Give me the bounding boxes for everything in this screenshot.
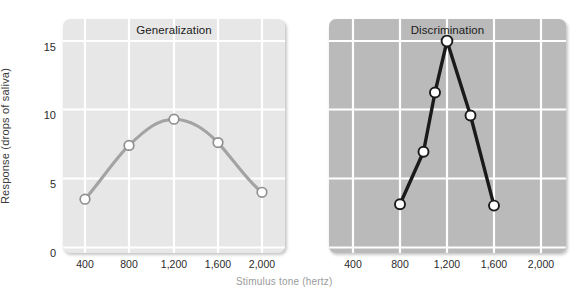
x-tick-right-800: 800 xyxy=(391,258,409,270)
x-tick-left-400: 400 xyxy=(76,258,94,270)
panel-title-generalization: Generalization xyxy=(63,24,285,36)
x-tick-right-1600: 1,600 xyxy=(481,258,507,270)
panel-title-discrimination: Discrimination xyxy=(329,24,566,36)
y-tick-5: 5 xyxy=(22,178,56,190)
x-tick-right-400: 400 xyxy=(344,258,362,270)
gridlines-vertical xyxy=(353,19,541,253)
panel-discrimination: Discrimination xyxy=(329,19,566,253)
x-tick-right-2000: 2,000 xyxy=(528,258,554,270)
x-axis-label: Stimulus tone (hertz) xyxy=(236,276,332,287)
y-tick-15: 15 xyxy=(22,41,56,53)
x-tick-left-1600: 1,600 xyxy=(205,258,231,270)
discrimination-plot xyxy=(329,19,566,253)
x-axis-ticks-right: 400 800 1,200 1,600 2,000 xyxy=(329,258,566,272)
y-axis-ticks: 0 5 10 15 xyxy=(18,0,56,299)
x-axis-ticks-left: 400 800 1,200 1,600 2,000 xyxy=(63,258,285,272)
gridlines-vertical xyxy=(85,19,262,253)
y-axis-label: Response (drops of saliva) xyxy=(0,18,14,254)
panel-generalization: Generalization xyxy=(63,19,285,253)
generalization-plot xyxy=(63,19,285,253)
y-tick-10: 10 xyxy=(22,109,56,121)
x-tick-left-2000: 2,000 xyxy=(249,258,275,270)
figure-container: Response (drops of saliva) 0 5 10 15 xyxy=(0,0,588,299)
x-tick-right-1200: 1,200 xyxy=(434,258,460,270)
y-tick-0: 0 xyxy=(22,247,56,259)
x-tick-left-800: 800 xyxy=(120,258,138,270)
x-tick-left-1200: 1,200 xyxy=(161,258,187,270)
